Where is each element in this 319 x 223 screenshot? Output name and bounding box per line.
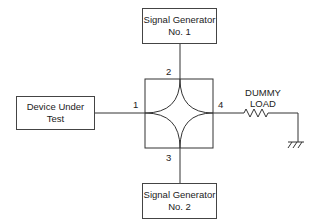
dummy-load-line1: DUMMY [238,87,288,98]
signal-generator-1-block: Signal Generator No. 1 [142,8,217,44]
sig-gen-1-line1: Signal Generator [144,14,216,26]
dut-line2: Test [47,113,64,125]
sig-gen-2-line1: Signal Generator [144,189,216,201]
port-3-label: 3 [166,153,171,163]
port-2-label: 2 [166,67,171,77]
dummy-load-label: DUMMY LOAD [238,87,288,109]
coupler-star-icon [145,79,213,148]
ground-icon [288,142,304,148]
dummy-load-line2: LOAD [238,98,288,109]
device-under-test-block: Device Under Test [16,96,95,130]
port-4-label: 4 [218,100,223,110]
dut-line1: Device Under [27,101,85,113]
sig-gen-1-line2: No. 1 [168,26,191,38]
resistor-icon [241,109,298,142]
port-1-label: 1 [133,100,138,110]
signal-generator-2-block: Signal Generator No. 2 [142,183,217,219]
sig-gen-2-line2: No. 2 [168,201,191,213]
